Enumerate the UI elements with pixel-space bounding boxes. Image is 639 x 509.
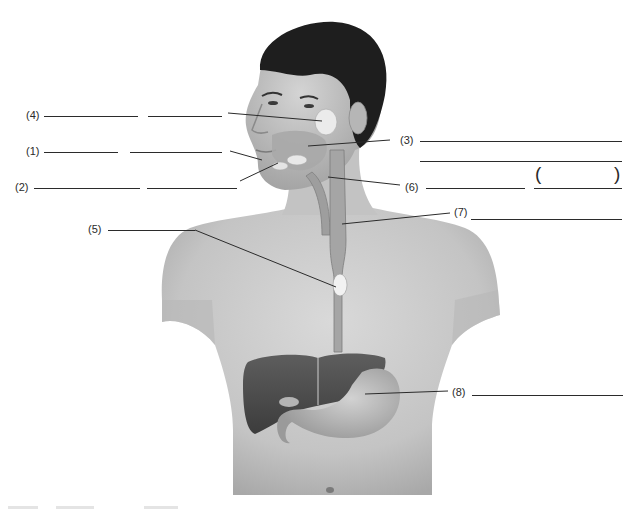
blank-1b[interactable] bbox=[130, 152, 222, 153]
blank-4b[interactable] bbox=[148, 116, 222, 117]
navel bbox=[326, 487, 334, 493]
blank-1a[interactable] bbox=[44, 152, 118, 153]
figure-caption-cutoff bbox=[8, 501, 178, 509]
label-2: (2) bbox=[15, 181, 28, 193]
label-7: (7) bbox=[454, 206, 467, 218]
blank-4a[interactable] bbox=[44, 116, 138, 117]
blank-3a[interactable] bbox=[420, 141, 622, 142]
paren-open: ( bbox=[535, 164, 541, 184]
label-8: (8) bbox=[452, 386, 465, 398]
blank-2a[interactable] bbox=[34, 188, 140, 189]
blank-6a[interactable] bbox=[426, 188, 525, 189]
food-bolus bbox=[333, 274, 347, 296]
label-4: (4) bbox=[26, 109, 39, 121]
label-1: (1) bbox=[26, 145, 39, 157]
blank-8[interactable] bbox=[472, 395, 623, 396]
blank-6b[interactable] bbox=[534, 188, 622, 189]
label-6: (6) bbox=[405, 181, 418, 193]
parotid-gland bbox=[315, 109, 337, 135]
blank-2b[interactable] bbox=[147, 188, 237, 189]
digestive-system-diagram: (4) (1) (2) (3) (6) ( ) (7) (5) (8) bbox=[0, 0, 639, 509]
label-3: (3) bbox=[400, 134, 413, 146]
sublingual-gland bbox=[272, 162, 288, 170]
blank-3b[interactable] bbox=[420, 161, 622, 162]
gallbladder bbox=[279, 397, 299, 407]
anatomy-illustration bbox=[0, 0, 639, 509]
submandibular-gland bbox=[287, 155, 307, 165]
label-5: (5) bbox=[88, 223, 101, 235]
ear bbox=[349, 102, 367, 134]
paren-close: ) bbox=[614, 164, 620, 184]
blank-7[interactable] bbox=[471, 219, 622, 220]
blank-5[interactable] bbox=[108, 230, 195, 231]
